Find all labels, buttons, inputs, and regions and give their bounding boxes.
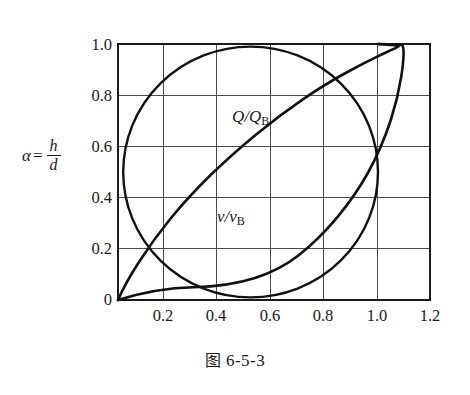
- plot-area: [0, 0, 470, 395]
- velocity-ratio-label-main: v/v: [217, 207, 237, 226]
- discharge-ratio-label-main: Q/Q: [232, 107, 261, 126]
- velocity-ratio-label-sub: B: [237, 214, 245, 228]
- figure-caption-number: 6-5-3: [226, 351, 265, 370]
- figure-caption: 图 6-5-3: [0, 347, 470, 371]
- plot-frame: [118, 44, 430, 300]
- figure-caption-cjk: 图: [205, 351, 222, 370]
- discharge-ratio-label-sub: B: [261, 114, 269, 128]
- grid-lines: [118, 44, 430, 300]
- pipe-cross-section-circle: [123, 47, 378, 298]
- discharge-ratio-label: Q/QB: [232, 107, 269, 129]
- figure-root: α = h d 1.0 0.8 0.6 0.4 0.2 0 0.2 0.4 0.…: [0, 0, 470, 395]
- velocity-ratio-label: v/vB: [217, 207, 245, 229]
